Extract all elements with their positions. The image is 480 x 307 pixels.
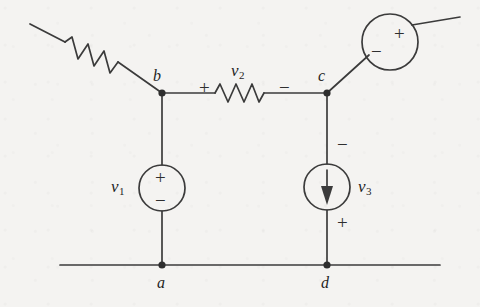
- v3-plus-sign: +: [337, 213, 348, 232]
- v2-minus-sign: −: [279, 78, 290, 97]
- circuit-diagram-figure: b c a d v2 + − v1 + − v3 − + − +: [0, 0, 480, 307]
- top-right-source-plus-sign: +: [394, 24, 405, 43]
- node-dot-a: [158, 261, 165, 268]
- v1-minus-sign: −: [155, 191, 166, 210]
- label-v1: v1: [111, 178, 125, 197]
- node-label-b: b: [153, 68, 161, 84]
- top-right-source-minus-sign: −: [371, 42, 382, 61]
- resistor-v2: [162, 84, 327, 102]
- label-v2: v2: [231, 62, 245, 81]
- node-label-c: c: [318, 68, 325, 84]
- current-arrow-head: [321, 186, 333, 205]
- circuit-schematic-svg: [0, 0, 480, 307]
- node-dot-b: [158, 89, 165, 96]
- resistor-diagonal: [30, 24, 162, 93]
- node-dot-d: [323, 261, 330, 268]
- current-source-v3: [304, 93, 350, 265]
- node-label-a: a: [157, 275, 165, 291]
- node-label-d: d: [321, 275, 329, 291]
- v2-plus-sign: +: [199, 78, 210, 97]
- v1-plus-sign: +: [155, 168, 166, 187]
- node-dot-c: [323, 89, 330, 96]
- v3-minus-sign: −: [337, 135, 348, 154]
- label-v3: v3: [358, 178, 372, 197]
